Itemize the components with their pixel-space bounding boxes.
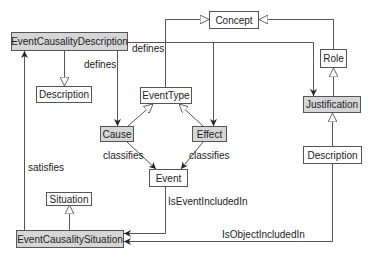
edge-label-defines-top: defines [132,43,164,54]
node-description-left[interactable]: Description [36,86,92,103]
edge-label-defines-left: defines [84,59,116,70]
edge-label-is-object-included-in: IsObjectIncludedIn [222,229,305,240]
edge-label-classifies-cause: classifies [103,150,144,161]
edge-label-classifies-effect: classifies [189,150,230,161]
node-description-right[interactable]: Description [303,146,362,164]
node-event[interactable]: Event [149,169,188,187]
node-effect[interactable]: Effect [192,126,227,142]
node-cause[interactable]: Cause [100,126,134,142]
edge-cause-eventtype [128,104,153,126]
edge-label-is-event-included-in: IsEventIncludedIn [168,196,248,207]
edge-role-concept [259,20,334,50]
edge-label-satisfies: satisfies [28,162,64,173]
node-concept[interactable]: Concept [209,11,259,29]
node-role[interactable]: Role [320,49,347,68]
edge-eventtype-concept [166,20,210,88]
node-event-causality-description[interactable]: EventCausalityDescription [11,32,128,51]
node-event-causality-situation[interactable]: EventCausalitySituation [16,230,124,248]
edge-effect-eventtype [179,104,203,126]
node-justification[interactable]: Justification [303,96,361,113]
node-situation[interactable]: Situation [46,192,92,206]
edge-event-included-ecs [124,187,166,234]
node-event-type[interactable]: EventType [140,87,192,104]
